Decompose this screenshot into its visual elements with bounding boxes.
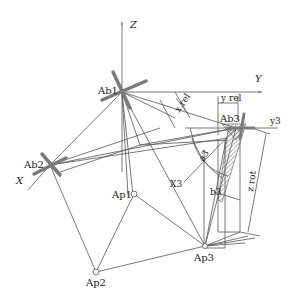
- ab3-label: Ab3: [219, 113, 240, 124]
- x-rel-label: x rel: [172, 92, 192, 115]
- ab2-label: Ab2: [23, 159, 44, 170]
- x-axis-label: X: [15, 175, 24, 186]
- ap2-node: [93, 269, 99, 275]
- ap3-node: [203, 244, 208, 249]
- z-axis-label: Z: [129, 19, 138, 30]
- robot-geometry-diagram: Z Y X y3 X3 Ab1 Ab2 Ab3 Ap1 Ap2 Ap3 x re…: [0, 0, 296, 304]
- ap1-label: Ap1: [111, 189, 132, 200]
- y-axis-label: Y: [255, 73, 263, 84]
- ap2-label: Ap2: [85, 277, 106, 288]
- y3-axis-label: y3: [269, 116, 281, 126]
- frame-lines: [28, 22, 278, 272]
- b3-label: b3: [210, 187, 222, 197]
- y-rel-label: y rel: [220, 93, 242, 103]
- x3-axis-label: X3: [170, 179, 182, 189]
- ap3-label: Ap3: [193, 252, 214, 263]
- ab1-label: Ab1: [97, 85, 118, 96]
- a3-label: a3: [196, 148, 211, 163]
